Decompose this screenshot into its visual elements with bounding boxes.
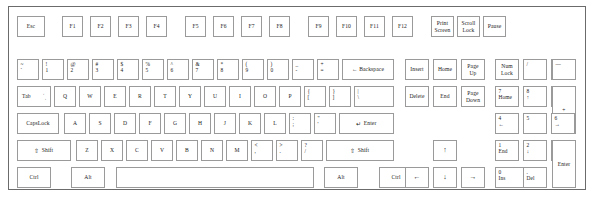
key-tab[interactable]: Tab ← → (17, 86, 51, 107)
key-y[interactable]: Y (179, 86, 201, 107)
key-numpad-enter[interactable]: Enter (552, 140, 576, 188)
shift-up-arrow-right-icon: ⇧ (350, 148, 355, 154)
key-alt-left[interactable]: Alt (71, 167, 105, 188)
key-page-down[interactable]: Page Down (461, 86, 485, 107)
key-numpad-5[interactable]: 5 (523, 113, 547, 134)
key-7[interactable]: & 7 (192, 59, 214, 80)
key-f4[interactable]: F4 (146, 16, 167, 37)
key-backslash[interactable]: | \ (354, 86, 394, 107)
key-delete[interactable]: Delete (405, 86, 429, 107)
key-bracket-right[interactable]: } ] (329, 86, 351, 107)
key-escape[interactable]: Esc (17, 16, 45, 37)
key-b[interactable]: B (176, 140, 198, 161)
key-enter[interactable]: ↵ Enter (339, 113, 394, 134)
key-numpad-decimal[interactable]: . Del (523, 167, 547, 188)
key-numpad-8[interactable]: 8 ↑ (523, 86, 547, 107)
key-end[interactable]: End (433, 86, 457, 107)
key-backspace[interactable]: ← Backspace (342, 59, 394, 80)
key-minus[interactable]: _ - (292, 59, 314, 80)
key-arrow-up[interactable]: ↑ (433, 140, 457, 161)
key-f12[interactable]: F12 (392, 16, 413, 37)
key-2[interactable]: @ 2 (67, 59, 89, 80)
key-i[interactable]: I (229, 86, 251, 107)
key-f2[interactable]: F2 (90, 16, 111, 37)
key-9[interactable]: ( 9 (242, 59, 264, 80)
key-f8[interactable]: F8 (269, 16, 290, 37)
key-numpad-7[interactable]: 7 Home (495, 86, 519, 107)
key-h[interactable]: H (189, 113, 211, 134)
key-6[interactable]: ^ 6 (167, 59, 189, 80)
key-f11[interactable]: F11 (364, 16, 385, 37)
key-0[interactable]: ) 0 (267, 59, 289, 80)
key-alt-right[interactable]: Alt (324, 167, 358, 188)
key-3[interactable]: # 3 (92, 59, 114, 80)
key-numpad-4[interactable]: 4 ← (495, 113, 519, 134)
key-shift-right[interactable]: ⇧ Shift (326, 140, 394, 161)
key-scroll-lock[interactable]: Scroll Lock (457, 16, 480, 37)
key-d[interactable]: D (114, 113, 136, 134)
key-backtick[interactable]: ~ ` (17, 59, 39, 80)
key-page-up[interactable]: Page Up (461, 59, 485, 80)
key-t[interactable]: T (154, 86, 176, 107)
key-insert[interactable]: Insert (405, 59, 429, 80)
key-shift-left[interactable]: ⇧ Shift (17, 140, 71, 161)
key-a[interactable]: A (64, 113, 86, 134)
key-f9[interactable]: F9 (308, 16, 329, 37)
key-z[interactable]: Z (76, 140, 98, 161)
key-slash[interactable]: ? / (301, 140, 323, 161)
key-pause[interactable]: Pause (483, 16, 506, 37)
key-5[interactable]: % 5 (142, 59, 164, 80)
key-caps-lock[interactable]: CapsLock (17, 113, 59, 134)
key-f10[interactable]: F10 (336, 16, 357, 37)
key-g[interactable]: G (164, 113, 186, 134)
key-m[interactable]: M (226, 140, 248, 161)
key-l[interactable]: L (264, 113, 286, 134)
key-8[interactable]: * 8 (217, 59, 239, 80)
key-numpad-6[interactable]: 6 → (551, 113, 575, 134)
key-home[interactable]: Home (433, 59, 457, 80)
key-p[interactable]: P (279, 86, 301, 107)
key-comma[interactable]: < , (251, 140, 273, 161)
key-c[interactable]: C (126, 140, 148, 161)
key-f1-label: F1 (68, 23, 76, 29)
key-s[interactable]: S (89, 113, 111, 134)
key-print-screen[interactable]: Print Screen (431, 16, 454, 37)
key-quote[interactable]: " ' (314, 113, 336, 134)
key-o[interactable]: O (254, 86, 276, 107)
key-1[interactable]: ! 1 (42, 59, 64, 80)
key-f1[interactable]: F1 (62, 16, 83, 37)
key-e[interactable]: E (104, 86, 126, 107)
key-x-label: X (109, 147, 115, 153)
key-semicolon[interactable]: : ; (289, 113, 311, 134)
key-f5[interactable]: F5 (185, 16, 206, 37)
key-equals[interactable]: + = (317, 59, 339, 80)
key-comma-bottom: , (255, 149, 273, 155)
key-f6[interactable]: F6 (213, 16, 234, 37)
key-numpad-subtract[interactable]: — (552, 59, 576, 80)
key-x[interactable]: X (101, 140, 123, 161)
key-f[interactable]: F (139, 113, 161, 134)
key-r[interactable]: R (129, 86, 151, 107)
key-ctrl-left[interactable]: Ctrl (17, 167, 51, 188)
key-numpad-2[interactable]: 2 ↓ (523, 140, 547, 161)
key-bracket-left[interactable]: { [ (304, 86, 326, 107)
key-f3[interactable]: F3 (118, 16, 139, 37)
key-space[interactable] (116, 167, 314, 188)
key-n[interactable]: N (201, 140, 223, 161)
key-u[interactable]: U (204, 86, 226, 107)
key-f2-label: F2 (96, 23, 104, 29)
key-period[interactable]: > . (276, 140, 298, 161)
key-arrow-left[interactable]: ← (405, 167, 429, 188)
key-4[interactable]: $ 4 (117, 59, 139, 80)
key-num-lock[interactable]: Num Lock (495, 59, 519, 80)
key-j[interactable]: J (214, 113, 236, 134)
key-f7[interactable]: F7 (241, 16, 262, 37)
key-numpad-divide[interactable]: / (523, 59, 547, 80)
key-q[interactable]: Q (54, 86, 76, 107)
key-w[interactable]: W (79, 86, 101, 107)
key-numpad-1[interactable]: 1 End (495, 140, 519, 161)
key-arrow-right[interactable]: → (461, 167, 485, 188)
key-arrow-down[interactable]: ↓ (433, 167, 457, 188)
key-v[interactable]: V (151, 140, 173, 161)
key-k[interactable]: K (239, 113, 261, 134)
